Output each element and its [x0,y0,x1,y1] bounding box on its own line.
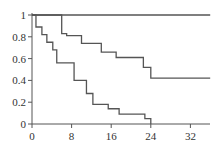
y-tick-label: 0 [21,118,27,130]
x-tick-label: 8 [69,130,75,142]
y-tick-label: 0.8 [12,31,26,43]
y-tick-label: 0.6 [12,53,26,65]
survival-step-chart: 00.20.40.60.8108162432 [0,0,222,150]
y-tick-label: 0.4 [12,74,26,86]
lower-survival-curve [32,15,151,124]
x-tick-label: 16 [106,130,118,142]
curves [32,15,210,124]
tick-labels: 00.20.40.60.8108162432 [12,9,196,142]
x-tick-label: 24 [145,130,157,142]
y-tick-label: 1 [21,9,27,21]
upper-survival-curve [32,15,210,78]
x-tick-label: 0 [29,130,35,142]
x-tick-label: 32 [185,130,196,142]
y-tick-label: 0.2 [12,96,26,108]
